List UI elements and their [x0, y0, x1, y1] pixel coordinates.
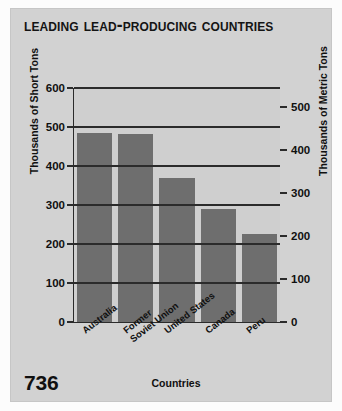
y-axis-left-title: Thousands of Short Tons	[28, 26, 40, 196]
y-tick-left-300	[67, 204, 73, 206]
y-label-right-500: 500	[291, 101, 310, 113]
y-label-right-400: 400	[291, 144, 310, 156]
y-tick-right-500	[280, 106, 287, 108]
y-label-right-100: 100	[291, 273, 310, 285]
gridline-400	[74, 165, 280, 167]
y-label-right-300: 300	[291, 187, 310, 199]
gridline-500	[74, 126, 280, 128]
y-tick-left-600	[67, 87, 73, 89]
gridline-100	[74, 282, 280, 284]
bar-peru[interactable]	[242, 234, 277, 322]
y-tick-right-300	[280, 192, 287, 194]
chart-panel: Leading Lead-Producing Countries 0100200…	[11, 9, 331, 401]
y-tick-right-200	[280, 235, 287, 237]
y-tick-left-100	[67, 282, 73, 284]
y-tick-right-100	[280, 278, 287, 280]
y-tick-left-200	[67, 243, 73, 245]
y-label-left-200: 200	[46, 238, 65, 250]
gridline-600	[74, 87, 280, 89]
y-label-left-300: 300	[46, 199, 65, 211]
y-label-right-0: 0	[291, 316, 297, 328]
bar-australia[interactable]	[77, 133, 112, 322]
y-tick-right-0	[280, 321, 287, 323]
x-axis-title: Countries	[73, 377, 279, 389]
y-tick-left-400	[67, 165, 73, 167]
gridline-300	[74, 204, 280, 206]
page-number: 736	[24, 371, 58, 395]
bar-former-soviet-union[interactable]	[118, 134, 153, 322]
gridline-200	[74, 243, 280, 245]
y-label-left-0: 0	[59, 316, 65, 328]
y-tick-left-500	[67, 126, 73, 128]
y-axis-right-title: Thousands of Metric Tons	[317, 26, 329, 196]
page: Leading Lead-Producing Countries 0100200…	[0, 0, 342, 411]
y-label-left-400: 400	[46, 160, 65, 172]
chart-title: Leading Lead-Producing Countries	[24, 16, 314, 36]
y-label-right-200: 200	[291, 230, 310, 242]
y-tick-left-0	[67, 321, 73, 323]
y-label-left-100: 100	[46, 277, 65, 289]
y-label-left-600: 600	[46, 82, 65, 94]
y-tick-right-400	[280, 149, 287, 151]
plot-area	[73, 88, 280, 323]
y-label-left-500: 500	[46, 121, 65, 133]
